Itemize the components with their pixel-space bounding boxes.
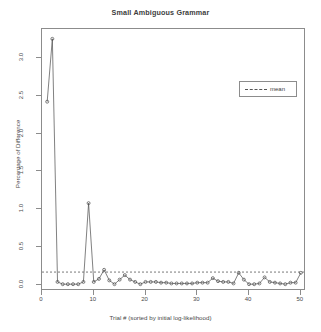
legend-mean-label: mean [270, 85, 285, 94]
legend-mean-line-swatch [245, 89, 267, 91]
y-tick-mark [36, 57, 41, 58]
series-line [47, 39, 301, 284]
chart-title: Small Ambiguous Grammar [0, 8, 321, 17]
y-tick-label-text: 0.0 [16, 271, 26, 297]
x-tick-mark [41, 290, 42, 295]
x-tick-mark [196, 290, 197, 295]
y-tick-label-text: 3.0 [16, 44, 26, 70]
x-tick-label: 20 [133, 296, 157, 302]
x-tick-mark [300, 290, 301, 295]
y-tick-mark [36, 133, 41, 134]
y-tick-mark [36, 208, 41, 209]
y-tick-mark [36, 284, 41, 285]
x-tick-label: 0 [29, 296, 53, 302]
y-tick-mark [36, 95, 41, 96]
y-tick-label: 0.0 [8, 279, 34, 289]
x-tick-mark [93, 290, 94, 295]
x-tick-label: 30 [184, 296, 208, 302]
x-tick-mark [248, 290, 249, 295]
plot-svg [42, 29, 306, 291]
x-tick-label: 50 [288, 296, 312, 302]
legend: mean [239, 81, 297, 97]
plot-area [41, 28, 305, 290]
y-tick-label: 3.0 [8, 52, 34, 62]
y-axis-title: Percentage of Difference [12, 89, 24, 219]
y-tick-mark [36, 246, 41, 247]
x-tick-label: 40 [236, 296, 260, 302]
data-series-group [46, 37, 303, 285]
x-axis-title: Trial # (sorted by initial log-likelihoo… [0, 314, 321, 321]
chart-figure: Small Ambiguous Grammar 0.00.51.01.52.02… [0, 0, 321, 332]
x-tick-mark [145, 290, 146, 295]
y-tick-label-text: 0.5 [16, 233, 26, 259]
y-tick-mark [36, 170, 41, 171]
x-tick-label: 10 [81, 296, 105, 302]
y-tick-label: 0.5 [8, 241, 34, 251]
